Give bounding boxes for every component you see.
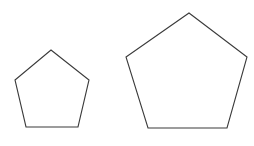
figure-canvas <box>0 0 254 146</box>
pentagons-figure <box>0 0 254 146</box>
